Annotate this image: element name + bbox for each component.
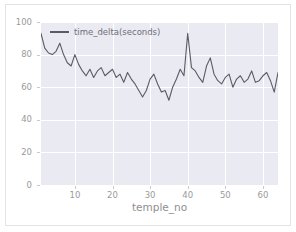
y-tick-label: 0 <box>0 181 32 190</box>
figure-canvas: 020406080100 102030405060 temple_no time… <box>0 0 296 232</box>
legend-line-swatch <box>50 31 69 33</box>
y-tick-mark <box>37 152 40 153</box>
y-tick-label: 20 <box>0 148 32 157</box>
y-tick-label: 60 <box>0 83 32 92</box>
x-tick-label: 30 <box>135 191 165 200</box>
x-tick-mark <box>150 186 151 189</box>
series-time-delta-line <box>41 33 278 100</box>
y-tick-mark <box>37 55 40 56</box>
plot-area <box>41 22 278 185</box>
y-tick-label: 100 <box>0 18 32 27</box>
legend-label: time_delta(seconds) <box>74 27 160 37</box>
x-tick-mark <box>225 186 226 189</box>
x-axis-label: temple_no <box>41 201 278 213</box>
x-tick-label: 60 <box>248 191 278 200</box>
x-tick-label: 20 <box>98 191 128 200</box>
series-line-chart <box>41 22 278 185</box>
x-tick-mark <box>113 186 114 189</box>
x-tick-label: 10 <box>60 191 90 200</box>
legend: time_delta(seconds) <box>50 27 160 37</box>
x-tick-mark <box>75 186 76 189</box>
y-tick-mark <box>37 120 40 121</box>
x-tick-mark <box>263 186 264 189</box>
y-tick-mark <box>37 185 40 186</box>
y-tick-mark <box>37 87 40 88</box>
x-tick-mark <box>188 186 189 189</box>
x-tick-label: 40 <box>173 191 203 200</box>
x-tick-label: 50 <box>210 191 240 200</box>
y-tick-mark <box>37 22 40 23</box>
y-tick-label: 80 <box>0 50 32 59</box>
y-tick-label: 40 <box>0 115 32 124</box>
